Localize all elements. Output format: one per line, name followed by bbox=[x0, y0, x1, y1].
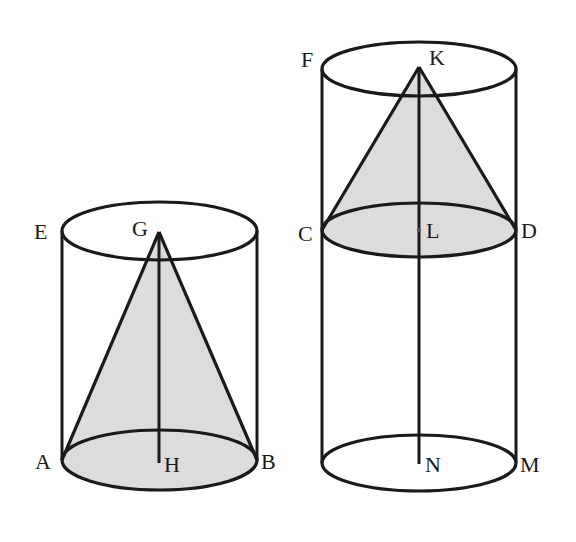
point-L bbox=[417, 228, 421, 232]
cylinders-cones-diagram: E G A H B F K C L D N M bbox=[0, 0, 576, 542]
label-G: G bbox=[132, 216, 148, 241]
label-K: K bbox=[429, 45, 445, 70]
right-cylinder: F K C L D N M bbox=[298, 42, 540, 491]
label-B: B bbox=[261, 449, 276, 474]
label-F: F bbox=[301, 47, 313, 72]
label-L: L bbox=[426, 218, 439, 243]
label-N: N bbox=[425, 452, 441, 477]
label-H: H bbox=[164, 452, 180, 477]
label-D: D bbox=[521, 218, 537, 243]
left-cylinder: E G A H B bbox=[34, 202, 276, 490]
label-C: C bbox=[298, 221, 313, 246]
label-E: E bbox=[34, 219, 47, 244]
label-M: M bbox=[520, 452, 540, 477]
label-A: A bbox=[35, 449, 51, 474]
